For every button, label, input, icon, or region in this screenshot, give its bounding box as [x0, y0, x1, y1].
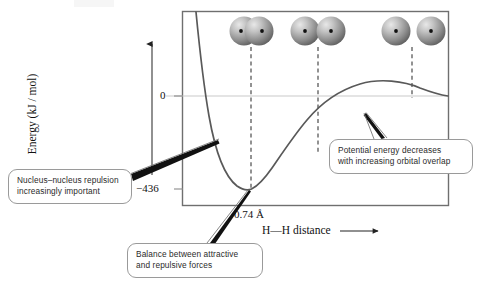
nucleus-dot: [260, 29, 264, 33]
nucleus-dot: [429, 29, 433, 33]
nucleus-dot: [394, 29, 398, 33]
y-tick-label-436: −436: [136, 182, 159, 195]
atom-pair-separated: [382, 17, 446, 46]
atom-sphere: [245, 17, 274, 46]
y-axis-ticks: [174, 96, 183, 189]
callout-balance-forces: Balance between attractive and repulsive…: [127, 243, 263, 278]
atom-pair-contact: [291, 17, 346, 46]
nucleus-dot: [329, 29, 333, 33]
x-axis-title: H—H distance: [262, 224, 331, 237]
callout-nucleus-repulsion: Nucleus–nucleus repulsion increasingly i…: [8, 169, 132, 204]
nucleus-dot: [303, 29, 307, 33]
nucleus-dot: [239, 29, 243, 33]
leader-orbital-overlap: [364, 113, 388, 140]
leader-nucleus-repulsion: [131, 139, 220, 181]
callout-orbital-overlap: Potential energy decreases with increasi…: [329, 139, 473, 174]
y-axis-title: Energy (kJ / mol): [26, 54, 38, 174]
potential-energy-figure: Energy (kJ / mol) 0 −436 0.74 Å H—H dist…: [0, 0, 481, 286]
callout-line: Potential energy decreases: [338, 145, 465, 156]
callout-line: Nucleus–nucleus repulsion: [17, 175, 124, 186]
x-tick-label-bond-length: 0.74 Å: [234, 208, 264, 221]
atom-pair-bonded: [230, 17, 274, 46]
y-tick-label-zero: 0: [160, 89, 166, 102]
callout-line: and repulsive forces: [136, 260, 255, 271]
callout-line: increasingly important: [17, 186, 124, 197]
callout-line: with increasing orbital overlap: [338, 156, 465, 167]
callout-line: Balance between attractive: [136, 249, 255, 260]
